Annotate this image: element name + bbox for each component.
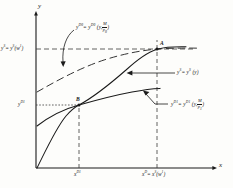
arrow-to-ys-head bbox=[127, 71, 133, 76]
ys-eq: = y bbox=[181, 69, 189, 75]
yd0-sup2: D0 bbox=[91, 23, 96, 27]
curve-ys-solid bbox=[37, 47, 186, 168]
yd1-args-close: ) bbox=[202, 101, 204, 107]
curve-label-ys: yS= yS (y) bbox=[177, 69, 199, 75]
xtick-left-sup: D1 bbox=[76, 170, 80, 174]
yd1-sup2: D1 bbox=[186, 100, 191, 104]
arrow-to-yd0-shaft bbox=[63, 30, 74, 62]
x-axis-tick-label-right: xD= xS(w1) bbox=[142, 171, 165, 177]
point-marker-b bbox=[78, 104, 81, 107]
economics-diagram: y x yD0= yD0 (y,Mp0) yS= yS (y) yD1= yD1… bbox=[0, 0, 233, 188]
yd0-eq: = y bbox=[83, 24, 91, 30]
yd0-args-close: ) bbox=[107, 24, 109, 30]
y-axis-arrowhead bbox=[34, 11, 38, 16]
y-axis-tick-label-top: yS= yS(w1) bbox=[1, 45, 23, 51]
x-axis-label: x bbox=[219, 162, 222, 169]
guide-lines-group bbox=[36, 40, 193, 168]
y-axis-tick-label-low: yD1 bbox=[18, 101, 25, 107]
ytick-low-sup: D1 bbox=[20, 100, 24, 104]
ys-args: (y) bbox=[192, 69, 198, 75]
point-marker-a bbox=[156, 48, 159, 51]
xtick-right-args-close: ) bbox=[163, 171, 165, 177]
annotation-arrows-group bbox=[61, 30, 175, 104]
x-axis-arrowhead bbox=[212, 166, 217, 170]
curve-yd0-dashed bbox=[37, 48, 199, 92]
y-axis-label: y bbox=[38, 3, 41, 10]
arrow-to-yd0-head bbox=[61, 61, 66, 67]
x-axis-tick-label-left: xD1 bbox=[74, 171, 81, 177]
arrow-to-yd1-head bbox=[143, 91, 150, 96]
curve-label-yd1: yD1= yD1 (y,Mp1) bbox=[171, 99, 204, 111]
ytick-top-eq: = y bbox=[5, 45, 12, 51]
point-label-b: B bbox=[76, 97, 80, 103]
point-label-a: A bbox=[160, 41, 164, 47]
ytick-top-args-close: ) bbox=[22, 45, 24, 51]
curve-yd1-solid bbox=[37, 88, 160, 126]
axes-group bbox=[34, 11, 217, 170]
ys-sup2: S bbox=[189, 68, 191, 72]
yd1-eq: = y bbox=[178, 101, 186, 107]
diagram-canvas bbox=[0, 0, 233, 188]
curve-label-yd0: yD0= yD0 (y,Mp0) bbox=[76, 22, 109, 34]
